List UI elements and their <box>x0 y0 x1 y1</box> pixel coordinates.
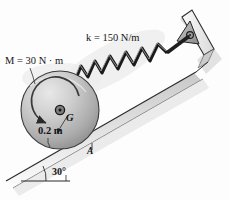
figure-canvas <box>0 0 230 200</box>
incline-angle-label: 30° <box>52 167 66 177</box>
spring-stiffness-label: k = 150 N/m <box>86 33 139 44</box>
center-point-g-marker <box>59 109 62 112</box>
center-point-label: G <box>66 113 74 124</box>
contact-point-label: A <box>87 147 93 157</box>
couple-moment-label: M = 30 N · m <box>5 56 63 67</box>
radius-label: 0.2 m <box>38 126 63 137</box>
mechanics-figure: k = 150 N/m M = 30 N · m 0.2 m G A 30° <box>0 0 230 200</box>
